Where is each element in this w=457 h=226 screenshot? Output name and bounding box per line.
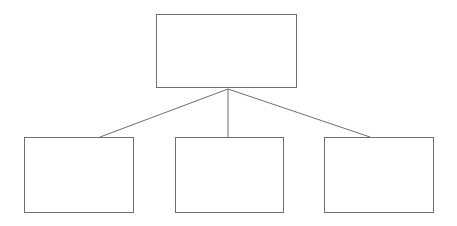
connector-group xyxy=(100,89,370,137)
node-child-3[interactable] xyxy=(325,138,434,213)
diagram-canvas xyxy=(0,0,457,226)
node-child-1-box[interactable] xyxy=(25,138,134,213)
connector-root-to-child-1 xyxy=(100,89,228,137)
node-child-2[interactable] xyxy=(176,138,284,213)
node-root[interactable] xyxy=(157,15,297,88)
node-root-box[interactable] xyxy=(157,15,297,88)
node-child-1[interactable] xyxy=(25,138,134,213)
node-child-3-box[interactable] xyxy=(325,138,434,213)
connector-root-to-child-3 xyxy=(228,89,370,137)
node-child-2-box[interactable] xyxy=(176,138,284,213)
hierarchy-diagram xyxy=(0,0,457,226)
